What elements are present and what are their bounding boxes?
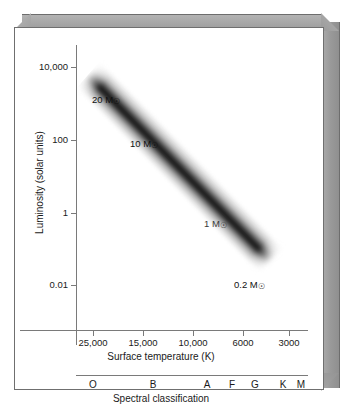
x-tick-mark [143,330,144,336]
spectral-class-m: M [293,379,309,390]
y-axis-line [76,45,77,345]
solar-mass-icon: ☉ [258,282,265,291]
annotation-mass-10: 10 M☉ [130,139,158,151]
annotation-mass-1: 1 M☉ [204,219,227,231]
spectral-axis-title: Spectral classification [14,393,308,404]
spectral-class-b: B [145,379,161,390]
spectral-class-a: A [199,379,215,390]
x-axis-title: Surface temperature (K) [14,351,308,362]
y-tick-mark [71,213,77,214]
y-axis-title: Luminosity (solar units) [34,98,45,268]
spectral-class-k: K [275,379,291,390]
plot-area: 10,000 100 1 0.01 25,000 15,000 10,000 6… [14,27,322,388]
y-tick-mark [71,67,77,68]
y-tick-label: 1 [63,208,68,218]
annotation-mass-02: 0.2 M☉ [234,280,265,292]
x-tick-mark [193,330,194,336]
y-tick-label: 10,000 [39,62,68,72]
y-tick-mark [71,140,77,141]
spectral-axis-rule [76,375,308,376]
y-tick-label: 0.01 [50,280,69,290]
frame-right-panel [322,22,340,388]
x-tick-mark [243,330,244,336]
spectral-class-f: F [224,379,240,390]
x-axis-line [20,330,308,331]
annotation-mass-10-text: 10 M [130,138,151,149]
spectral-class-g: G [247,379,263,390]
solar-mass-icon: ☉ [151,141,158,150]
y-tick-label: 100 [52,135,68,145]
spectral-class-o: O [85,379,101,390]
annotation-mass-20-text: 20 M [92,94,113,105]
solar-mass-icon: ☉ [113,97,120,106]
annotation-mass-20: 20 M☉ [92,95,120,107]
x-tick-mark [289,330,290,336]
annotation-mass-02-text: 0.2 M [234,279,258,290]
annotation-mass-1-text: 1 M [204,218,220,229]
y-tick-mark [71,285,77,286]
x-tick-label: 3000 [259,338,319,348]
figure-root: 10,000 100 1 0.01 25,000 15,000 10,000 6… [0,0,353,416]
solar-mass-icon: ☉ [220,221,227,230]
x-tick-mark [93,330,94,336]
